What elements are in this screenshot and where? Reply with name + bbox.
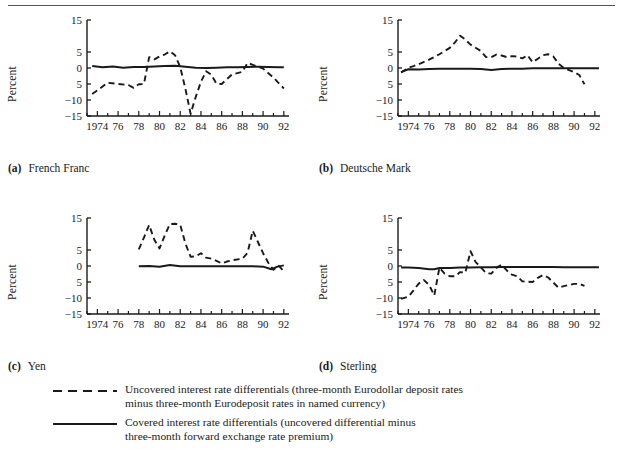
series-line-dashed xyxy=(139,224,284,272)
x-tick-label: 84 xyxy=(506,318,518,330)
y-tick-label: 5 xyxy=(77,78,83,90)
plot-area-b: 15505−10−151974767880828486889092 xyxy=(364,14,604,142)
x-tick-label: 1974 xyxy=(86,318,109,330)
legend-line-1: Covered interest rate differentials (unc… xyxy=(125,415,595,429)
y-tick-label: 5 xyxy=(388,244,394,256)
panel-caption-d: (d)Sterling xyxy=(319,360,376,372)
y-axis-label-c: Percent xyxy=(6,162,20,242)
series-line-dashed xyxy=(401,36,584,85)
x-tick-label: 78 xyxy=(133,120,145,132)
x-tick-label: 78 xyxy=(444,318,456,330)
top-divider-rule xyxy=(8,5,615,6)
x-tick-label: 88 xyxy=(237,120,249,132)
panel-tag-c: (c) xyxy=(8,360,21,372)
y-tick-label: 0 xyxy=(388,62,394,74)
x-tick-label: 78 xyxy=(444,120,456,132)
x-tick-label: 90 xyxy=(569,318,581,330)
x-tick-label: 86 xyxy=(216,120,228,132)
x-tick-label: 92 xyxy=(278,120,289,132)
x-tick-label: 76 xyxy=(424,120,436,132)
chart-svg-deutsche-mark: 15505−10−151974767880828486889092 xyxy=(364,14,604,142)
x-tick-label: 76 xyxy=(424,318,436,330)
figure-root: Percent 15505−10−15197476788082848688909… xyxy=(0,0,623,449)
legend-line-2: three-month forward exchange rate premiu… xyxy=(125,429,595,443)
panel-caption-b: (b)Deutsche Mark xyxy=(319,162,411,174)
series-line-solid xyxy=(139,265,284,269)
y-tick-label: 0 xyxy=(77,260,83,272)
y-tick-label: 5 xyxy=(77,46,83,58)
x-tick-label: 1974 xyxy=(397,318,420,330)
panel-caption-a: (a)French Franc xyxy=(8,162,89,174)
series-line-solid xyxy=(401,267,599,269)
x-tick-label: 76 xyxy=(113,120,125,132)
x-tick-label: 80 xyxy=(154,318,166,330)
panel-title-a: French Franc xyxy=(28,162,89,174)
panel-caption-c: (c)Yen xyxy=(8,360,46,372)
y-tick-label: 5 xyxy=(388,276,394,288)
x-tick-label: 88 xyxy=(237,318,249,330)
figure-legend: Uncovered interest rate differentials (t… xyxy=(0,382,623,449)
dashed-line-swatch-icon xyxy=(52,389,118,393)
x-tick-label: 90 xyxy=(258,318,270,330)
chart-panel-sterling: Percent 15505−10−15197476788082848688909… xyxy=(311,208,622,394)
x-tick-label: 84 xyxy=(195,120,207,132)
x-tick-label: 1974 xyxy=(397,120,420,132)
x-tick-label: 88 xyxy=(548,120,560,132)
x-tick-label: 80 xyxy=(465,318,477,330)
x-tick-label: 1974 xyxy=(86,120,109,132)
legend-text-uncovered: Uncovered interest rate differentials (t… xyxy=(125,382,595,411)
y-tick-label: 5 xyxy=(388,78,394,90)
x-tick-label: 82 xyxy=(175,120,186,132)
x-tick-label: 86 xyxy=(216,318,228,330)
x-tick-label: 80 xyxy=(465,120,477,132)
panel-title-c: Yen xyxy=(28,360,46,372)
x-tick-label: 86 xyxy=(527,318,539,330)
legend-line-1: Uncovered interest rate differentials (t… xyxy=(125,382,595,396)
legend-text-covered: Covered interest rate differentials (unc… xyxy=(125,415,595,444)
x-tick-label: 82 xyxy=(486,318,497,330)
x-tick-label: 76 xyxy=(113,318,125,330)
chart-svg-yen: 15505−10−151974767880828486889092 xyxy=(53,212,293,340)
y-tick-label: −10 xyxy=(376,94,394,106)
chart-panel-deutsche-mark: Percent 15505−10−15197476788082848688909… xyxy=(311,10,622,196)
y-tick-label: 15 xyxy=(382,14,394,26)
y-axis-label-b: Percent xyxy=(317,0,331,44)
panel-title-b: Deutsche Mark xyxy=(340,162,411,174)
y-tick-label: 15 xyxy=(382,212,394,224)
y-tick-label: 5 xyxy=(388,46,394,58)
y-tick-label: −10 xyxy=(65,292,83,304)
x-tick-label: 84 xyxy=(506,120,518,132)
y-tick-label: 15 xyxy=(71,14,83,26)
y-tick-label: 0 xyxy=(77,62,83,74)
x-tick-label: 90 xyxy=(258,120,270,132)
plot-area-d: 15505−10−151974767880828486889092 xyxy=(364,212,604,340)
legend-line-2: minus three-month Eurodeposit rates in n… xyxy=(125,396,595,410)
y-tick-label: −15 xyxy=(376,308,394,320)
panel-tag-d: (d) xyxy=(319,360,333,372)
chart-panel-french-franc: Percent 15505−10−15197476788082848688909… xyxy=(0,10,311,196)
x-tick-label: 88 xyxy=(548,318,560,330)
panel-title-d: Sterling xyxy=(340,360,376,372)
series-line-dashed xyxy=(401,251,584,299)
chart-svg-french-franc: 15505−10−151974767880828486889092 xyxy=(53,14,293,142)
x-tick-label: 78 xyxy=(133,318,145,330)
x-tick-label: 80 xyxy=(154,120,166,132)
x-tick-label: 82 xyxy=(175,318,186,330)
x-tick-label: 92 xyxy=(589,120,600,132)
y-tick-label: 0 xyxy=(388,260,394,272)
x-tick-label: 86 xyxy=(527,120,539,132)
y-tick-label: −15 xyxy=(65,110,83,122)
x-tick-label: 84 xyxy=(195,318,207,330)
y-tick-label: −15 xyxy=(65,308,83,320)
chart-panel-yen: Percent 15505−10−15197476788082848688909… xyxy=(0,208,311,394)
y-axis-label-a: Percent xyxy=(6,0,20,44)
y-tick-label: −15 xyxy=(376,110,394,122)
series-line-dashed xyxy=(92,51,284,113)
y-tick-label: −10 xyxy=(376,292,394,304)
series-line-solid xyxy=(92,66,284,68)
y-tick-label: −10 xyxy=(65,94,83,106)
x-tick-label: 90 xyxy=(569,120,581,132)
solid-line-swatch-icon xyxy=(52,422,118,426)
x-tick-label: 82 xyxy=(486,120,497,132)
y-tick-label: 5 xyxy=(77,276,83,288)
